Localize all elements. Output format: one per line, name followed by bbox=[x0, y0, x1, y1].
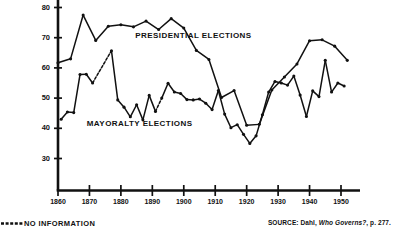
series-segment bbox=[319, 60, 325, 96]
data-point bbox=[286, 84, 289, 87]
source-title: Who Governs? bbox=[319, 219, 366, 226]
data-point bbox=[56, 61, 59, 64]
series-segment bbox=[143, 95, 149, 119]
series-segment bbox=[121, 25, 134, 27]
data-point bbox=[255, 134, 258, 137]
series-segment bbox=[96, 26, 109, 40]
source-prefix: SOURCE: Dahl, bbox=[268, 219, 317, 226]
data-point bbox=[273, 80, 276, 83]
series-segment bbox=[288, 76, 294, 85]
y-axis-tick-label: 30 bbox=[34, 154, 50, 163]
series-segment bbox=[130, 105, 136, 117]
series-segment bbox=[133, 21, 146, 27]
data-point bbox=[91, 81, 94, 84]
data-point bbox=[223, 113, 226, 116]
data-point bbox=[110, 49, 113, 52]
series-segment bbox=[86, 74, 92, 83]
y-axis-tick-label: 60 bbox=[34, 63, 50, 72]
series-segment bbox=[325, 60, 331, 92]
series-segment-no-information bbox=[155, 98, 161, 111]
y-axis-tick-label: 80 bbox=[34, 3, 50, 12]
data-point bbox=[122, 106, 125, 109]
data-point bbox=[346, 59, 349, 62]
data-point bbox=[308, 39, 311, 42]
series-segment bbox=[310, 40, 323, 41]
y-axis-tick-label: 70 bbox=[34, 33, 50, 42]
data-point bbox=[185, 98, 188, 101]
data-point bbox=[94, 39, 97, 42]
series-segment bbox=[58, 59, 71, 63]
y-axis-tick-label: 50 bbox=[34, 93, 50, 102]
series-segment bbox=[196, 50, 209, 59]
data-point bbox=[154, 110, 157, 113]
data-point bbox=[207, 58, 210, 61]
x-axis-tick-label: 1900 bbox=[171, 198, 197, 205]
data-point bbox=[182, 26, 185, 29]
data-point bbox=[333, 45, 336, 48]
x-axis-tick-label: 1870 bbox=[76, 198, 102, 205]
data-point bbox=[242, 133, 245, 136]
data-point bbox=[292, 75, 295, 78]
x-axis-tick-label: 1860 bbox=[45, 198, 71, 205]
data-point bbox=[179, 92, 182, 95]
presidential-elections-label: PRESIDENTIAL ELECTIONS bbox=[135, 31, 251, 40]
x-axis-tick-label: 1910 bbox=[202, 198, 228, 205]
data-point bbox=[72, 111, 75, 114]
data-point bbox=[295, 62, 298, 65]
series-segment bbox=[212, 91, 218, 110]
series-segment bbox=[209, 59, 222, 97]
data-point bbox=[170, 17, 173, 20]
data-point bbox=[148, 94, 151, 97]
series-segment bbox=[294, 76, 300, 95]
data-point bbox=[317, 95, 320, 98]
series-segment bbox=[222, 91, 235, 98]
source-note: SOURCE: Dahl, Who Governs?, p. 277. bbox=[268, 219, 391, 226]
data-point bbox=[211, 108, 214, 111]
x-axis-tick-label: 1920 bbox=[234, 198, 260, 205]
series-segment bbox=[162, 83, 168, 98]
data-point bbox=[119, 23, 122, 26]
series-segment bbox=[225, 114, 231, 128]
data-point bbox=[283, 75, 286, 78]
series-mayoralty bbox=[60, 49, 346, 145]
mayoralty-elections-label: MAYORALTY ELECTIONS bbox=[87, 119, 193, 128]
x-axis-tick-label: 1950 bbox=[328, 198, 354, 205]
data-point bbox=[299, 94, 302, 97]
data-point bbox=[132, 25, 135, 28]
x-axis-tick-label: 1890 bbox=[139, 198, 165, 205]
no-information-legend-label: NO INFORMATION bbox=[24, 219, 95, 228]
data-point bbox=[78, 73, 81, 76]
data-point bbox=[107, 25, 110, 28]
data-point bbox=[116, 98, 119, 101]
data-point bbox=[144, 20, 147, 23]
data-point bbox=[245, 124, 248, 127]
data-point bbox=[311, 89, 314, 92]
series-segment bbox=[262, 92, 268, 115]
series-segment bbox=[124, 107, 130, 117]
data-point bbox=[85, 73, 88, 76]
x-axis-tick-label: 1880 bbox=[108, 198, 134, 205]
series-segment bbox=[168, 83, 174, 92]
data-point bbox=[66, 110, 69, 113]
data-point bbox=[173, 91, 176, 94]
data-point bbox=[324, 59, 327, 62]
series-segment bbox=[306, 91, 312, 117]
data-point bbox=[233, 89, 236, 92]
data-point bbox=[192, 98, 195, 101]
series-segment bbox=[284, 64, 297, 77]
dashed-line-swatch-icon bbox=[1, 221, 23, 226]
series-segment bbox=[234, 91, 247, 126]
data-point bbox=[229, 126, 232, 129]
data-point bbox=[60, 118, 63, 121]
series-segment-no-information bbox=[93, 51, 112, 83]
data-point bbox=[280, 81, 283, 84]
series-segment bbox=[171, 19, 184, 28]
y-axis-tick-label: 40 bbox=[34, 123, 50, 132]
series-segment bbox=[300, 95, 306, 116]
chart-axes bbox=[54, 0, 360, 196]
series-segment bbox=[149, 95, 155, 111]
data-point bbox=[82, 14, 85, 17]
series-segment bbox=[244, 134, 250, 143]
data-point bbox=[236, 123, 239, 126]
data-point bbox=[204, 102, 207, 105]
